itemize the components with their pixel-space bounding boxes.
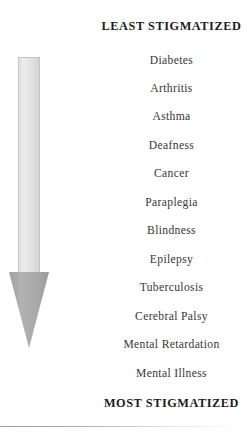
least-stigmatized-heading: LEAST STIGMATIZED <box>96 19 247 34</box>
arrow-shaft <box>19 58 40 273</box>
list-item: Blindness <box>96 224 247 237</box>
most-stigmatized-heading: MOST STIGMATIZED <box>96 396 247 411</box>
list-item: Mental Retardation <box>96 338 247 351</box>
list-item: Mental Illness <box>96 367 247 380</box>
list-item: Arthritis <box>96 82 247 95</box>
stigma-scale-figure: LEAST STIGMATIZED Diabetes Arthritis Ast… <box>0 0 247 432</box>
list-item: Epilepsy <box>96 253 247 266</box>
downward-arrow-icon <box>0 0 110 400</box>
list-item: Diabetes <box>96 54 247 67</box>
list-item: Paraplegia <box>96 196 247 209</box>
list-item: Asthma <box>96 110 247 123</box>
list-item: Cerebral Palsy <box>96 310 247 323</box>
list-item: Deafness <box>96 139 247 152</box>
bottom-divider <box>0 426 247 427</box>
stigma-scale-list: LEAST STIGMATIZED Diabetes Arthritis Ast… <box>96 0 247 432</box>
list-item: Cancer <box>96 167 247 180</box>
arrow-head <box>9 272 49 348</box>
list-item: Tuberculosis <box>96 281 247 294</box>
